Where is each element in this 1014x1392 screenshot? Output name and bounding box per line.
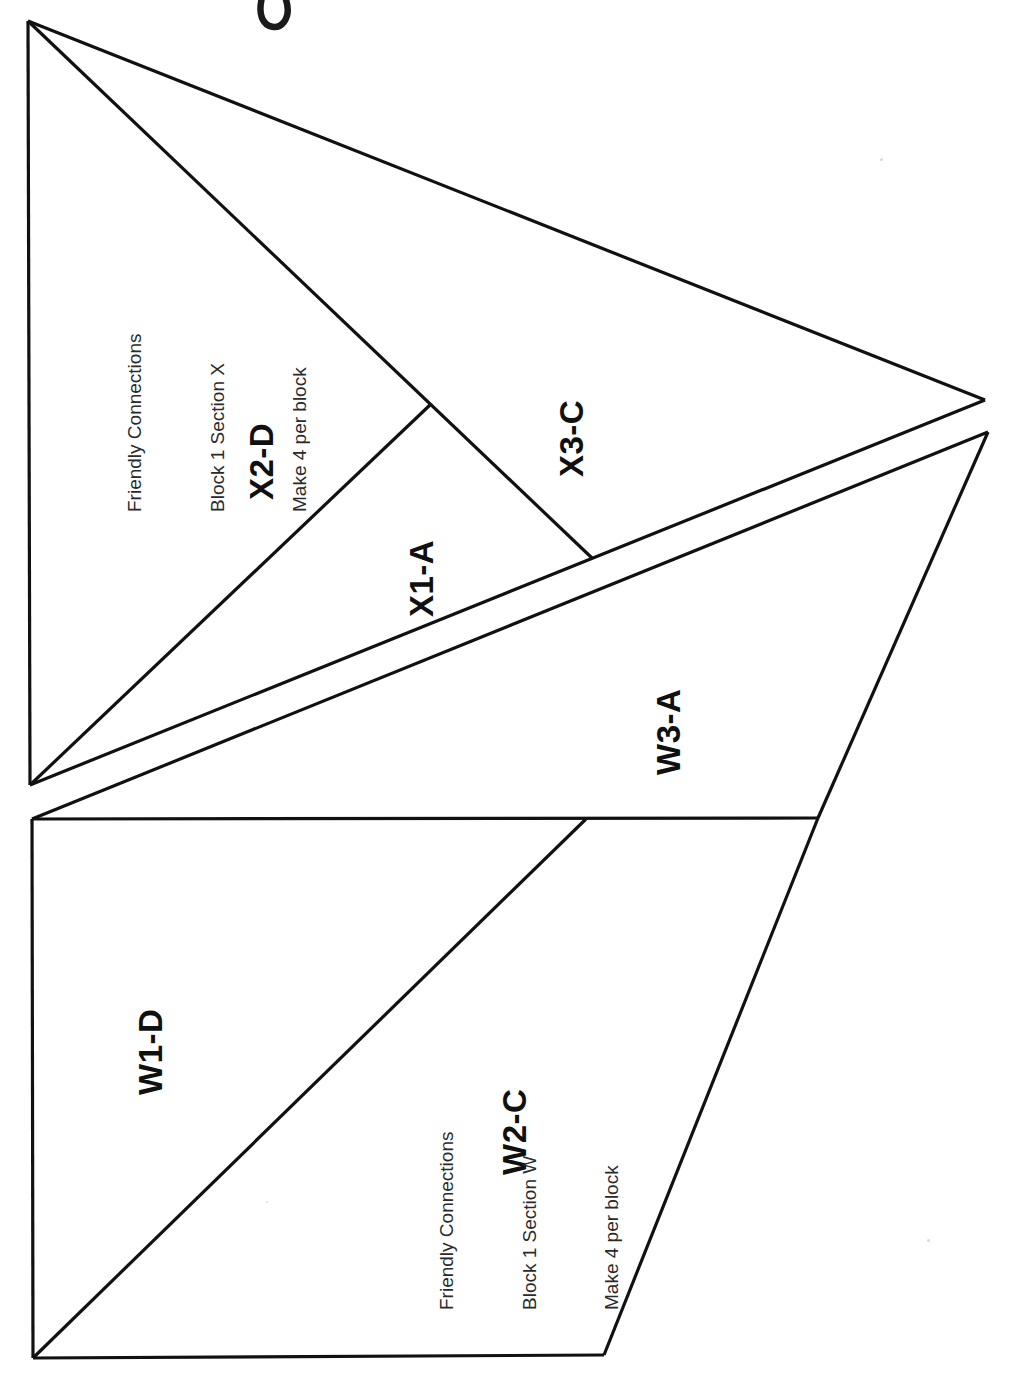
section-x-info-line2: Block 1 Section X [204,334,232,512]
section-w-left-edge [32,819,33,1358]
section-w-info-line3: Make 4 per block [598,1132,626,1310]
section-x-info-line1: Friendly Connections [121,334,149,512]
handwritten-scribble-mark [260,0,300,27]
piece-label-x2d: X2-D [244,423,281,500]
section-w-info-block: Friendly Connections Block 1 Section W M… [378,1132,681,1310]
scan-speckle [880,158,883,161]
section-w-bottom-edge [33,1355,604,1358]
section-w-info-line2: Block 1 Section W [516,1132,544,1310]
section-x-left-edge [28,21,30,785]
section-x-info-line3: Make 4 per block [286,334,314,512]
piece-label-x1a: X1-A [404,540,441,617]
section-x-info-block: Friendly Connections Block 1 Section X M… [66,334,369,512]
scan-speckle [266,1201,268,1203]
piece-label-w1d: W1-D [133,1009,170,1095]
seam-w3a-w1d [32,818,818,819]
piece-label-x3c: X3-C [554,400,591,477]
pattern-sheet: Friendly Connections Block 1 Section X M… [0,0,1014,1392]
piece-label-w3a: W3-A [651,689,688,775]
scan-speckle [927,1239,930,1242]
section-w-info-line1: Friendly Connections [433,1132,461,1310]
